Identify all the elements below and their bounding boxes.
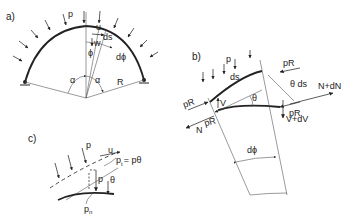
ds-label-b: ds: [230, 72, 240, 82]
w-label: w: [93, 38, 101, 48]
V-dV-label: V+dV: [286, 114, 308, 124]
u-label-c: u: [108, 145, 113, 155]
panel-a-label: a): [6, 11, 15, 22]
theta-label-b: θ: [252, 93, 257, 103]
pressure-arrows-c: [55, 148, 86, 178]
panel-c: c) p u p θ pt= pθ pn: [28, 133, 141, 214]
pn-label: pn: [84, 204, 92, 214]
theta-label-c: θ: [110, 175, 115, 185]
panel-c-label: c): [28, 133, 36, 144]
N-dN-label: N+dN: [318, 81, 341, 91]
radius-label: R: [117, 77, 124, 87]
right-support: [139, 78, 149, 83]
left-support: [20, 80, 30, 85]
phi-label-a: ϕ: [88, 48, 93, 58]
load-p-label-a: p: [68, 9, 73, 19]
left-cut-line: [208, 98, 250, 195]
dphi-label-a: dϕ: [116, 52, 126, 62]
panel-b: b) p θ pR pR pR pR θ ds: [182, 50, 342, 195]
dphi-arc-b: [236, 157, 276, 162]
alpha-left-label: α: [70, 75, 75, 85]
ds-label-a: ds: [103, 32, 113, 42]
load-p-top-label-c: p: [86, 140, 91, 150]
theta-ds-label: θ ds: [290, 79, 308, 89]
pressure-arrows-a: [13, 11, 158, 61]
arch-curve-c: [58, 193, 114, 200]
panel-a: a) p: [6, 9, 158, 98]
load-p-label-b: p: [226, 54, 231, 64]
pR-top-right-label: pR: [283, 58, 295, 68]
u-label-a: u: [96, 22, 101, 32]
load-p-mid-label-c: p: [98, 174, 103, 184]
V-label: V: [220, 98, 226, 108]
arch-mechanics-figure: a) p: [0, 0, 351, 214]
N-label: N: [196, 125, 203, 135]
panel-b-label: b): [192, 51, 201, 62]
alpha-right-label: α: [95, 75, 100, 85]
dphi-label-b: dϕ: [247, 145, 257, 155]
left-radius-line: [25, 82, 86, 98]
pt-label: pt= pθ: [116, 155, 141, 167]
arch-curve-a: [25, 26, 144, 82]
